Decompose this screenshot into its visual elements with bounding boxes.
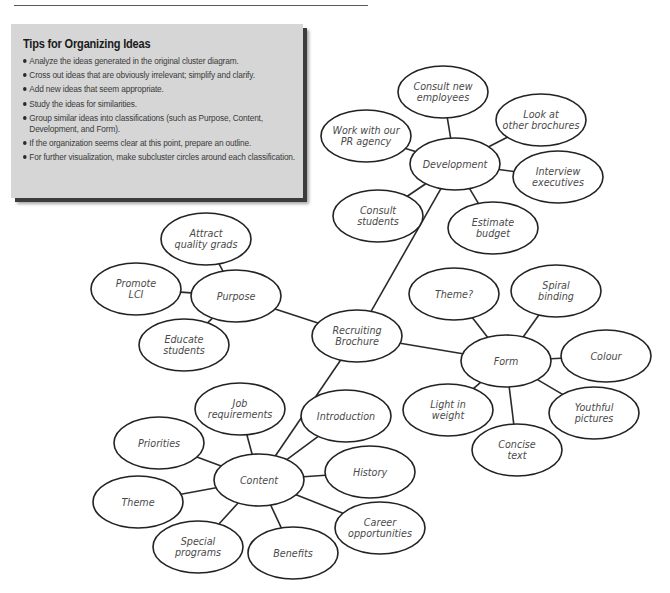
node-label: Purpose — [217, 291, 256, 302]
node-label: Priorities — [138, 438, 180, 449]
node-label: Benefits — [273, 548, 312, 559]
edge-form-theme-question — [472, 318, 487, 338]
node-label: Look at — [523, 109, 560, 120]
edge-development-interview-executives — [499, 170, 514, 172]
node-label: Recruiting — [332, 325, 381, 336]
edge-development-estimate-budget — [470, 189, 479, 204]
node-label: opportunities — [348, 528, 412, 539]
node-theme: Theme — [93, 476, 183, 528]
node-label: Development — [423, 159, 489, 170]
node-label: Brochure — [335, 336, 379, 347]
node-label: Special — [181, 536, 216, 547]
edge-form-colour — [551, 358, 561, 359]
node-label: requirements — [208, 409, 273, 420]
node-label: pictures — [574, 413, 614, 424]
edge-purpose-educate-students — [208, 318, 213, 323]
edge-form-concise-text — [509, 387, 514, 424]
node-label: other brochures — [503, 120, 580, 131]
node-youthful-pictures: Youthfulpictures — [549, 387, 639, 439]
node-special-programs: Specialprograms — [153, 521, 243, 573]
node-label: budget — [476, 228, 511, 239]
edge-content-special-programs — [219, 503, 238, 524]
edge-content-priorities — [197, 457, 221, 466]
node-educate-students: Educatestudents — [139, 319, 229, 371]
node-label: Colour — [590, 351, 622, 362]
node-purpose: Purpose — [191, 270, 281, 322]
node-label: LCI — [129, 289, 144, 300]
node-label: Interview — [536, 166, 581, 177]
node-work-with-pr-agency: Work with ourPR agency — [321, 110, 411, 162]
node-career-opportunities: Careeropportunities — [335, 502, 425, 554]
node-label: Introduction — [317, 411, 375, 422]
node-benefits: Benefits — [248, 527, 338, 579]
node-interview-executives: Interviewexecutives — [513, 151, 603, 203]
node-label: text — [507, 450, 527, 461]
node-label: students — [163, 345, 205, 356]
node-label: Spiral — [542, 280, 570, 291]
node-label: Educate — [164, 334, 203, 345]
node-label: weight — [432, 410, 466, 421]
node-job-requirements: Jobrequirements — [195, 383, 285, 435]
node-label: Light in — [430, 399, 466, 410]
node-attract-quality-grads: Attractquality grads — [161, 213, 251, 265]
edge-purpose-attract-quality-grads — [219, 264, 223, 271]
node-theme-question: Theme? — [409, 268, 499, 320]
edge-development-consult-students — [407, 184, 425, 196]
edge-content-benefits — [271, 505, 282, 528]
node-recruiting: RecruitingBrochure — [312, 310, 402, 362]
edge-content-theme — [181, 488, 216, 494]
node-label: Content — [240, 475, 279, 486]
node-label: Form — [494, 356, 519, 367]
edge-development-consult-new-employees — [447, 118, 450, 138]
node-label: executives — [532, 177, 584, 188]
node-label: Career — [364, 517, 397, 528]
node-label: students — [357, 216, 399, 227]
node-introduction: Introduction — [301, 390, 391, 442]
cluster-diagram: RecruitingBrochureDevelopmentConsult new… — [0, 0, 670, 593]
node-label: employees — [417, 92, 469, 103]
node-label: Work with our — [332, 125, 400, 136]
node-look-at-other-brochures: Look atother brochures — [496, 94, 586, 146]
node-label: Attract — [189, 228, 224, 239]
edge-content-introduction — [287, 436, 318, 459]
node-label: Theme? — [435, 289, 473, 300]
edge-form-youthful-pictures — [537, 380, 562, 395]
node-content: Content — [214, 454, 304, 506]
node-promote-lci: PromoteLCI — [91, 263, 181, 315]
edge-content-history — [304, 475, 326, 477]
edge-development-look-at-other-brochures — [489, 137, 508, 147]
node-consult-students: Consultstudents — [333, 190, 423, 242]
node-label: Promote — [116, 278, 157, 289]
node-label: PR agency — [341, 136, 392, 147]
edge-form-light-in-weight — [473, 382, 480, 388]
node-concise-text: Concisetext — [472, 424, 562, 476]
node-form: Form — [461, 335, 551, 387]
node-development: Development — [410, 138, 500, 190]
node-light-in-weight: Light inweight — [403, 384, 493, 436]
node-colour: Colour — [561, 330, 651, 382]
node-label: binding — [538, 291, 574, 302]
node-label: Job — [231, 398, 248, 409]
node-label: programs — [174, 547, 221, 558]
node-priorities: Priorities — [114, 417, 204, 469]
node-consult-new-employees: Consult newemployees — [398, 66, 488, 118]
node-label: Consult — [360, 205, 397, 216]
edge-center-form — [400, 343, 463, 353]
node-label: quality grads — [175, 239, 238, 250]
edge-development-work-with-pr-agency — [406, 148, 416, 151]
node-label: History — [353, 467, 387, 478]
edge-purpose-promote-lci — [181, 292, 192, 293]
node-history: History — [325, 446, 415, 498]
edge-center-purpose — [275, 309, 318, 323]
edge-form-spiral-binding — [523, 315, 539, 337]
node-spiral-binding: Spiralbinding — [511, 265, 601, 317]
edge-content-career-opportunities — [296, 495, 343, 514]
diagram-nodes: RecruitingBrochureDevelopmentConsult new… — [91, 66, 651, 579]
node-label: Consult new — [413, 81, 472, 92]
edge-content-job-requirements — [247, 435, 252, 455]
node-estimate-budget: Estimatebudget — [448, 202, 538, 254]
node-label: Theme — [121, 497, 154, 508]
node-label: Youthful — [575, 402, 614, 413]
node-label: Estimate — [472, 217, 514, 228]
node-label: Concise — [498, 439, 536, 450]
